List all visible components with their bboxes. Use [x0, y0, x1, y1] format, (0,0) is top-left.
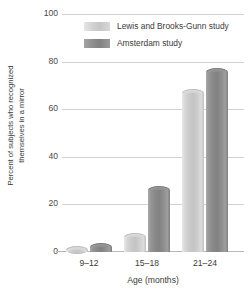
- y-axis-title-line1: Percent of subjects who recognized: [6, 28, 17, 224]
- legend-label-amsterdam: Amsterdam study: [117, 39, 182, 48]
- gridline-100: [62, 14, 244, 15]
- bar-body: [90, 247, 112, 252]
- bar-amsterdam-9-12: [90, 243, 112, 252]
- y-tick-label-0: 0: [34, 247, 58, 256]
- bar-body: [206, 72, 228, 252]
- bar-body: [66, 250, 88, 252]
- bar-body: [148, 190, 170, 252]
- bar-lewis-15-18: [124, 233, 146, 252]
- x-tick-label-9-12: 9–12: [62, 258, 116, 268]
- y-axis-title: Percent of subjects who recognized thems…: [0, 0, 32, 258]
- bar-amsterdam-15-18: [148, 186, 170, 252]
- bar-amsterdam-21-24: [206, 68, 228, 252]
- x-tick-label-15-18: 15–18: [120, 258, 174, 268]
- legend-swatch-icon: [84, 39, 110, 48]
- gridline-80: [62, 62, 244, 63]
- chart-legend: Lewis and Brooks-Gunn study Amsterdam st…: [84, 19, 229, 53]
- legend-swatch-icon: [84, 22, 110, 31]
- y-tick-label-100: 100: [34, 9, 58, 18]
- legend-label-lewis: Lewis and Brooks-Gunn study: [117, 22, 229, 31]
- bar-body: [182, 93, 204, 252]
- y-tick-label-40: 40: [34, 152, 58, 161]
- legend-item-amsterdam: Amsterdam study: [84, 36, 229, 50]
- y-tick-label-60: 60: [34, 104, 58, 113]
- y-tick-label-80: 80: [34, 57, 58, 66]
- bar-body: [124, 237, 146, 252]
- bar-chart: Percent of subjects who recognized thems…: [0, 0, 248, 295]
- y-axis-title-line2: themselves in a mirror: [16, 28, 27, 224]
- x-tick-label-21-24: 21–24: [178, 258, 232, 268]
- x-axis-title: Age (months): [62, 275, 244, 285]
- legend-item-lewis: Lewis and Brooks-Gunn study: [84, 19, 229, 33]
- bar-lewis-21-24: [182, 89, 204, 252]
- bar-lewis-9-12: [66, 246, 88, 252]
- y-tick-label-20: 20: [34, 199, 58, 208]
